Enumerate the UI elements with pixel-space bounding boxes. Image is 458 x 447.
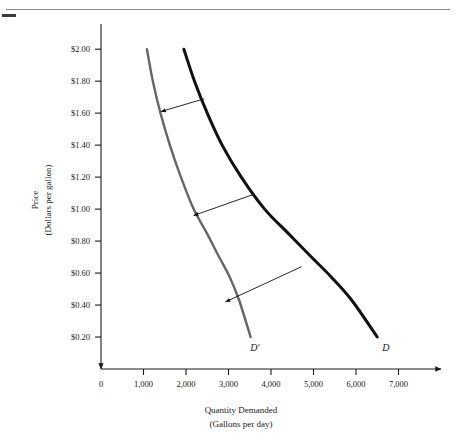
demand-curve-labels: DD′ xyxy=(249,342,390,353)
y-tick-label-4: $1.00 xyxy=(71,204,90,214)
y-tick-label-0: $0.20 xyxy=(71,332,90,342)
y-tick-label-9: $2.00 xyxy=(71,44,90,54)
x-tick-label-5: 5,000 xyxy=(304,379,323,389)
y-tick-label-3: $0.80 xyxy=(71,236,90,246)
y-tick-label-1: $0.40 xyxy=(71,300,90,310)
demand-curve-chart: $0.20$0.40$0.60$0.80$1.00$1.20$1.40$1.60… xyxy=(0,0,458,447)
y-axis-title: Price xyxy=(30,191,40,210)
y-axis-title-group: Price (Dollars per gallon) xyxy=(30,165,53,236)
demand-curve-D xyxy=(184,49,377,337)
shift-arrow-middle xyxy=(194,195,253,216)
x-tick-label-3: 3,000 xyxy=(219,379,238,389)
y-tick-label-5: $1.20 xyxy=(71,172,90,182)
x-tick-label-2: 2,000 xyxy=(176,379,195,389)
shift-annotation-arrows xyxy=(161,99,302,302)
x-tick-label-7: 7,000 xyxy=(389,379,408,389)
demand-curves xyxy=(147,49,377,337)
y-axis-tick-labels: $0.20$0.40$0.60$0.80$1.00$1.20$1.40$1.60… xyxy=(71,44,90,342)
x-axis-title-group: Quantity Demanded (Gallons per day) xyxy=(205,405,278,429)
shift-arrow-bottom xyxy=(226,267,302,302)
shift-arrow-top xyxy=(161,99,204,112)
x-tick-label-1: 1,000 xyxy=(134,379,153,389)
y-tick-label-6: $1.40 xyxy=(71,140,90,150)
curve-label-D-prime: D′ xyxy=(249,342,260,353)
x-axis-title: Quantity Demanded xyxy=(205,405,278,415)
x-axis-tick-labels: 01,0002,0003,0004,0005,0006,0007,000 xyxy=(99,379,408,389)
y-axis-units: (Dollars per gallon) xyxy=(43,165,53,236)
y-tick-label-7: $1.60 xyxy=(71,108,90,118)
x-tick-label-6: 6,000 xyxy=(346,379,365,389)
x-tick-label-0: 0 xyxy=(99,379,103,389)
y-axis-ticks xyxy=(95,49,101,337)
curve-label-D: D xyxy=(381,342,390,353)
x-axis-ticks xyxy=(144,369,399,375)
x-tick-label-4: 4,000 xyxy=(261,379,280,389)
x-axis-units: (Gallons per day) xyxy=(210,419,273,429)
y-tick-label-8: $1.80 xyxy=(71,76,90,86)
figure-root: $0.20$0.40$0.60$0.80$1.00$1.20$1.40$1.60… xyxy=(0,0,458,447)
y-tick-label-2: $0.60 xyxy=(71,268,90,278)
